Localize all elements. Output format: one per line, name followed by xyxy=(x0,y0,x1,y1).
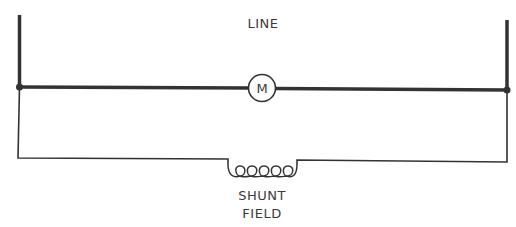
armature-wire-right xyxy=(275,89,507,91)
shunt-motor-circuit-diagram: LINE M SHUNT FIELD xyxy=(0,0,516,227)
motor-symbol: M xyxy=(249,75,276,102)
field-wire-left xyxy=(18,87,228,164)
field-label: FIELD xyxy=(242,206,281,221)
shunt-field-coil-icon xyxy=(228,164,297,177)
shunt-label: SHUNT xyxy=(238,188,286,203)
field-wire-right xyxy=(297,90,507,164)
armature-wire-left xyxy=(20,87,250,88)
line-label: LINE xyxy=(247,16,278,31)
motor-label: M xyxy=(256,81,267,96)
